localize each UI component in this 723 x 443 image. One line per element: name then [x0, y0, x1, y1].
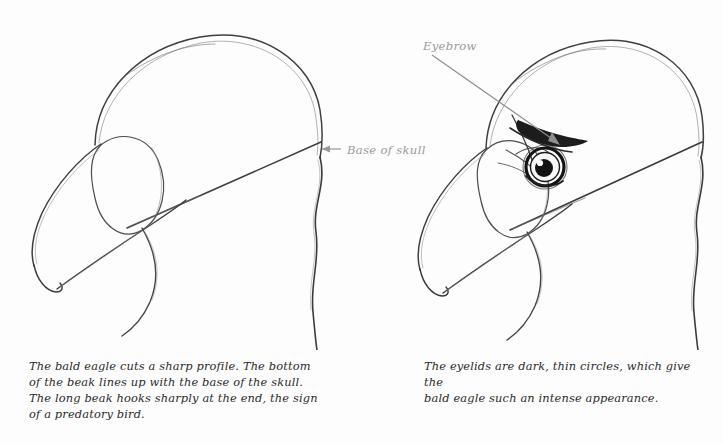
label-base-of-skull: Base of skull [347, 143, 426, 157]
caption-left-figure: The bald eagle cuts a sharp profile. The… [29, 358, 359, 422]
beak-gape-line-secondary [446, 226, 540, 291]
neck-back-line [693, 157, 702, 350]
eagle-head-construction-sketch [0, 0, 400, 350]
eye-socket-ellipse [91, 137, 163, 235]
base-of-skull-guide-line-secondary [128, 196, 200, 227]
cranium-dome-stroke [486, 40, 704, 158]
drawing-lesson-page: Base of skull Eyebrow The bald eagle cut… [0, 0, 723, 443]
neck-back-line-secondary [310, 160, 319, 310]
eagle-eye-group [510, 120, 588, 189]
figure-eagle-head-construction [0, 0, 400, 350]
base-of-skull-guide-line-secondary [512, 198, 585, 229]
beak-upper-ridge [418, 148, 487, 270]
lower-jaw-curve [122, 228, 156, 336]
cranium-dome-secondary-stroke [490, 46, 699, 156]
beak-upper-ridge [32, 144, 101, 266]
eye-highlight [537, 160, 543, 166]
beak-gape-line-secondary [60, 222, 154, 287]
cranium-top-overstroke [120, 44, 215, 80]
label-eyebrow: Eyebrow [423, 39, 477, 53]
lower-jaw-curve [507, 232, 541, 340]
neck-back-line [312, 157, 321, 350]
cranium-dome-stroke [95, 35, 322, 158]
caption-right-figure: The eyelids are dark, thin circles, whic… [424, 358, 704, 406]
eyebrow-stroke [516, 120, 588, 147]
neck-back-line-secondary [691, 160, 700, 311]
